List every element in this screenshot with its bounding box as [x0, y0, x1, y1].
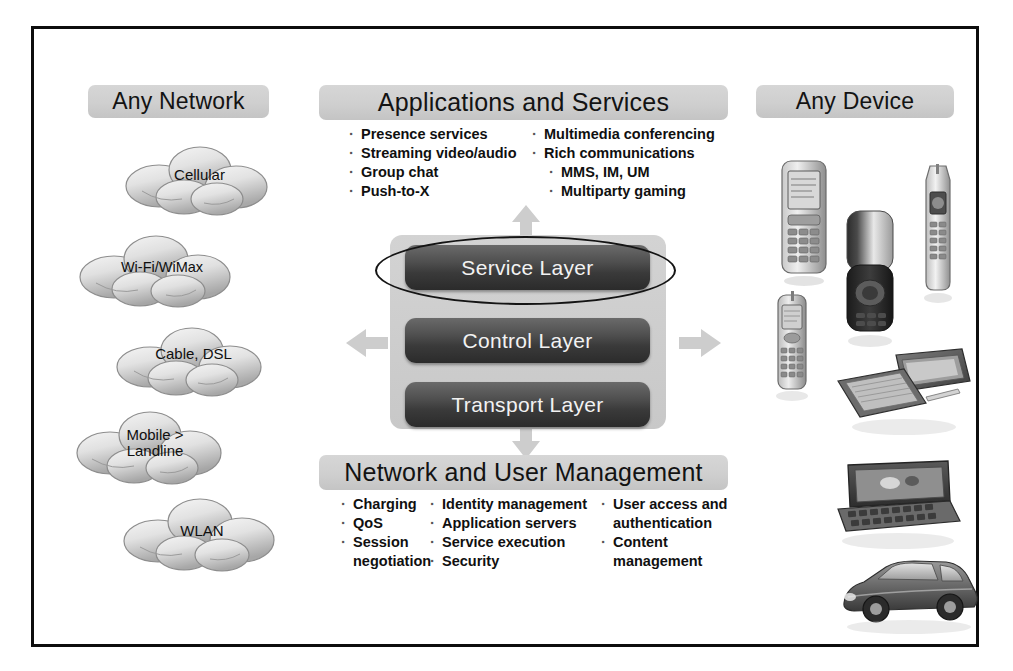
bullet-item: management — [600, 552, 727, 571]
arrow-left-icon — [346, 325, 388, 361]
cloud-mobile-landline: Mobile > Landline — [70, 405, 240, 489]
bullet-item: Content — [600, 533, 727, 552]
applications-bullets-right: Multimedia conferencing Rich communicati… — [531, 125, 715, 200]
management-title: Network and User Management — [319, 455, 728, 490]
management-bullets-col3: User access and authentication Content m… — [600, 495, 727, 570]
bullet-item: Push-to-X — [348, 182, 517, 201]
device-compact-phone — [770, 291, 814, 401]
cloud-cellular: Cellular — [112, 139, 287, 219]
bullet-item: Session — [340, 533, 431, 552]
bullet-item: Streaming video/audio — [348, 144, 517, 163]
device-car-vehicle — [834, 549, 984, 635]
device-slim-bar-phone — [918, 164, 958, 304]
applications-title: Applications and Services — [319, 85, 728, 120]
management-bullets-col2: Identity management Application servers … — [429, 495, 587, 570]
device-laptop-computer — [832, 459, 962, 551]
service-layer-highlight-ellipse — [375, 236, 676, 305]
bullet-item: Identity management — [429, 495, 587, 514]
arrow-up-icon — [507, 205, 545, 235]
bullet-item: Rich communications — [531, 144, 715, 163]
bullet-item: authentication — [600, 514, 727, 533]
control-layer-box[interactable]: Control Layer — [405, 318, 650, 363]
transport-layer-box[interactable]: Transport Layer — [405, 382, 650, 427]
management-bullets-col1: Charging QoS Session negotiation — [340, 495, 431, 570]
applications-bullets-left: Presence services Streaming video/audio … — [348, 125, 517, 200]
diagram-frame: Any Network Cellular — [31, 26, 979, 647]
any-network-title: Any Network — [88, 85, 269, 118]
bullet-item: Security — [429, 552, 587, 571]
bullet-item: User access and — [600, 495, 727, 514]
cloud-wifi-wimax: Wi-Fi/WiMax — [72, 229, 252, 311]
device-candybar-phone — [778, 159, 830, 287]
bullet-item: Multimedia conferencing — [531, 125, 715, 144]
bullet-item: QoS — [340, 514, 431, 533]
device-flip-phone — [842, 209, 900, 349]
bullet-item: Charging — [340, 495, 431, 514]
any-device-title: Any Device — [756, 85, 954, 118]
bullet-item: Multiparty gaming — [531, 182, 715, 201]
bullet-item: MMS, IM, UM — [531, 163, 715, 182]
arrow-right-icon — [679, 325, 721, 361]
bullet-item: Presence services — [348, 125, 517, 144]
device-pda-organizer — [834, 347, 974, 437]
bullet-item: negotiation — [340, 552, 431, 571]
cloud-cable-dsl: Cable, DSL — [106, 321, 281, 401]
cloud-wlan: WLAN — [112, 491, 292, 575]
bullet-item: Application servers — [429, 514, 587, 533]
bullet-item: Service execution — [429, 533, 587, 552]
bullet-item: Group chat — [348, 163, 517, 182]
